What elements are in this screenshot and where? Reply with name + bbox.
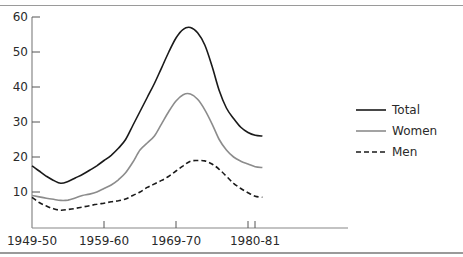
series-men-line [32,160,262,210]
legend: Total Women Men [356,103,437,159]
x-tick-label: 1949-50 [7,234,57,248]
y-tick-labels: 60 50 40 30 20 10 [13,10,28,199]
x-tick-labels: 1949-50 1959-60 1969-70 1980-81 [7,234,280,248]
y-tick-label: 30 [13,115,28,129]
legend-item-total: Total [356,103,420,117]
x-tick-label: 1980-81 [230,234,280,248]
y-tick-label: 60 [13,10,28,24]
x-ticks [104,221,255,228]
x-tick-label: 1959-60 [79,234,129,248]
y-tick-label: 10 [13,185,28,199]
y-tick-label: 40 [13,80,28,94]
legend-label: Total [391,103,420,117]
line-chart: 60 50 40 30 20 10 1949-50 1959-60 1969-7… [0,0,463,257]
legend-item-women: Women [356,124,437,138]
y-tick-label: 20 [13,150,28,164]
y-tick-label: 50 [13,45,28,59]
x-tick-label: 1969-70 [151,234,201,248]
legend-label: Men [392,145,417,159]
legend-label: Women [392,124,437,138]
legend-item-men: Men [356,145,417,159]
series-total-line [32,27,262,183]
